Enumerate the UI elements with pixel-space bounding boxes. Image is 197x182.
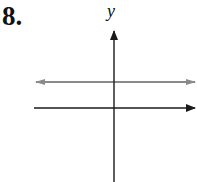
coordinate-graph: [0, 0, 197, 182]
